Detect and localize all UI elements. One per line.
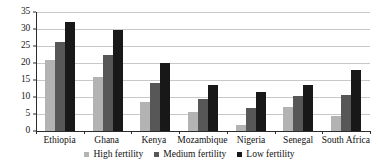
legend-label: Low fertility — [246, 150, 294, 160]
bar — [293, 96, 303, 131]
bar — [160, 63, 170, 131]
legend-swatch-icon — [237, 152, 242, 157]
bar — [303, 85, 313, 131]
bar-group — [179, 12, 227, 131]
y-axis-tick-label: 25 — [21, 41, 30, 51]
bar — [140, 102, 150, 131]
bar-group — [36, 12, 84, 131]
bar-group — [131, 12, 179, 131]
legend-item[interactable]: Low fertility — [237, 150, 294, 160]
y-axis-tick-label: 0 — [25, 126, 30, 136]
y-axis-tick-label: 30 — [21, 24, 30, 34]
x-axis-category-label: Ghana — [83, 134, 130, 146]
bar — [246, 108, 256, 131]
bar — [45, 60, 55, 131]
bar — [256, 92, 266, 131]
x-axis-category-label: Kenya — [130, 134, 177, 146]
x-axis-category-label: Senegal — [275, 134, 322, 146]
bar-chart: 05101520253035 EthiopiaGhanaKenyaMozambi… — [0, 0, 379, 168]
y-axis-tick-label: 5 — [25, 109, 30, 119]
chart-legend: High fertilityMedium fertilityLow fertil… — [0, 150, 379, 160]
bar-group — [227, 12, 275, 131]
x-axis-category-labels: EthiopiaGhanaKenyaMozambiqueNigeriaSeneg… — [36, 134, 370, 146]
legend-swatch-icon — [154, 152, 159, 157]
bar — [283, 107, 293, 131]
bar — [93, 77, 103, 131]
x-axis-tick-mark — [370, 131, 371, 134]
y-axis-tick-label: 10 — [21, 92, 30, 102]
y-axis-tick-label: 20 — [21, 58, 30, 68]
bar — [55, 42, 65, 131]
bar — [351, 70, 361, 131]
y-axis-tick-labels: 05101520253035 — [0, 12, 36, 131]
bar — [198, 99, 208, 131]
bar-group — [84, 12, 132, 131]
x-axis-category-label: Nigeria — [227, 134, 274, 146]
bar — [208, 85, 218, 131]
legend-item[interactable]: High fertility — [84, 150, 143, 160]
bar — [65, 22, 75, 131]
bar — [103, 55, 113, 132]
x-axis-category-label: Mozambique — [177, 134, 227, 146]
bar-groups — [36, 12, 370, 131]
bar — [331, 116, 341, 131]
bar-group — [322, 12, 370, 131]
legend-label: Medium fertility — [163, 150, 226, 160]
x-axis-category-label: Ethiopia — [36, 134, 83, 146]
legend-item[interactable]: Medium fertility — [154, 150, 226, 160]
bar — [341, 95, 351, 131]
bar — [150, 83, 160, 131]
bar-group — [275, 12, 323, 131]
y-axis-tick-label: 35 — [21, 7, 30, 17]
bar — [188, 112, 198, 131]
legend-label: High fertility — [93, 150, 143, 160]
x-axis-category-label: South Africa — [322, 134, 370, 146]
y-axis-tick-label: 15 — [21, 75, 30, 85]
legend-swatch-icon — [84, 152, 89, 157]
bar — [113, 30, 123, 131]
